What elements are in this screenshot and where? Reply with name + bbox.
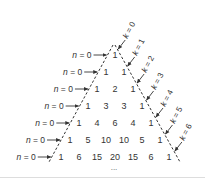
triangle-entry: 1: [94, 84, 99, 94]
diagonal-arrow: [165, 125, 172, 134]
diagonal-label: k = 5: [168, 105, 184, 125]
diagonal-arrow: [175, 142, 182, 151]
row-label: n = 0: [35, 118, 54, 128]
diagonal-arrow: [156, 108, 163, 117]
continuation-ellipsis: ...: [111, 163, 118, 172]
row-label: n = 0: [54, 84, 73, 94]
row-labels: n = 0n = 0n = 0n = 0n = 0n = 0n = 0: [17, 50, 92, 162]
diagonal-label: k = 2: [140, 54, 156, 74]
triangle-entry: 15: [128, 152, 138, 162]
triangle-entry: 20: [110, 152, 120, 162]
triangle-entry: 1: [76, 118, 81, 128]
diagonal-arrow: [147, 91, 154, 100]
diagonal-arrow: [118, 40, 125, 49]
triangle-entry: 6: [112, 118, 117, 128]
triangle-entry: 5: [139, 135, 144, 145]
diagonal-label: k = 4: [159, 88, 175, 108]
diagonal-label: k = 1: [130, 37, 146, 57]
triangle-entry: 2: [112, 84, 117, 94]
triangle-entry: 1: [58, 152, 63, 162]
triangle-entry: 6: [76, 152, 81, 162]
triangle-entry: 1: [130, 84, 135, 94]
triangle-entry: 1: [85, 101, 90, 111]
row-label: n = 0: [17, 152, 36, 162]
triangle-entry: 1: [157, 135, 162, 145]
row-label: n = 0: [26, 135, 45, 145]
diagonal-label: k = 3: [149, 71, 165, 91]
triangle-entry: 5: [85, 135, 90, 145]
triangle-entry: 1: [166, 152, 171, 162]
pascal-triangle-diagram: n = 0n = 0n = 0n = 0n = 0n = 0n = 0 1111…: [0, 0, 205, 179]
diagonal-arrow: [128, 57, 135, 66]
diagonal-arrow: [137, 74, 144, 83]
triangle-entry: 15: [92, 152, 102, 162]
triangle-entry: 1: [112, 50, 117, 60]
triangle-entry: 10: [119, 135, 129, 145]
triangle-entry: 1: [121, 67, 126, 77]
triangle-entry: 3: [103, 101, 108, 111]
bottom-divider: [0, 177, 205, 178]
triangle-entry: 1: [103, 67, 108, 77]
triangle-entry: 4: [94, 118, 99, 128]
row-label: n = 0: [44, 101, 63, 111]
triangle-entry: 10: [101, 135, 111, 145]
row-label: n = 0: [63, 67, 82, 77]
triangle-entry: 1: [139, 101, 144, 111]
triangle-entry: 1: [148, 118, 153, 128]
diagonal-label: k = 0: [121, 20, 137, 40]
triangle-entry: 3: [121, 101, 126, 111]
triangle-entry: 1: [67, 135, 72, 145]
row-label: n = 0: [72, 50, 91, 60]
diagram-canvas: n = 0n = 0n = 0n = 0n = 0n = 0n = 0 1111…: [0, 0, 205, 179]
diagonal-label: k = 6: [178, 122, 194, 142]
triangle-entry: 4: [130, 118, 135, 128]
triangle-entry: 6: [148, 152, 153, 162]
